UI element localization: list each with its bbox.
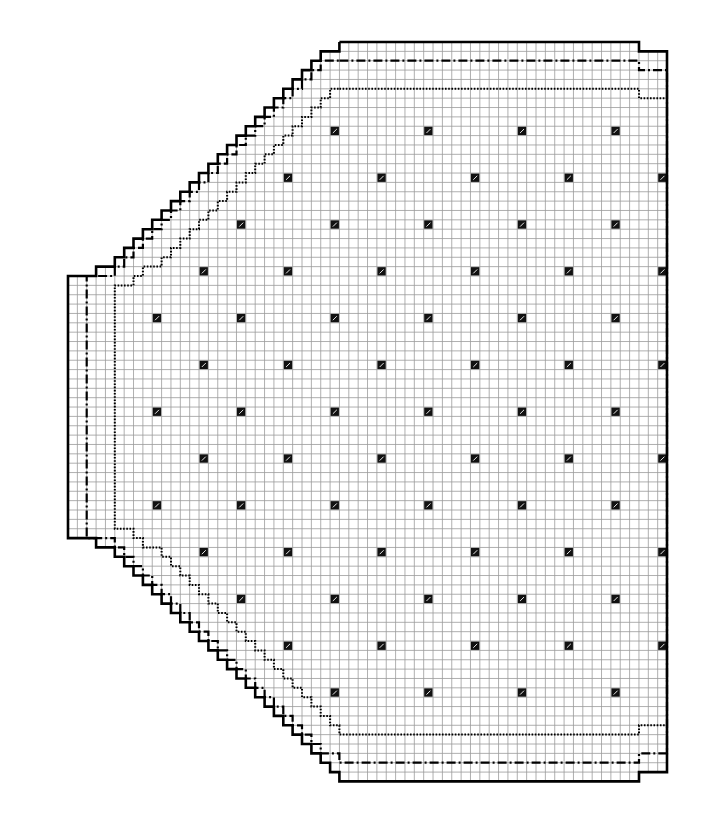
stitch-marker-icon	[331, 595, 339, 603]
stitch-marker-icon	[200, 361, 208, 369]
stitch-markers	[153, 127, 667, 697]
stitch-marker-icon	[471, 642, 479, 650]
stitch-marker-icon	[424, 220, 432, 228]
stitch-marker-icon	[424, 314, 432, 322]
stitch-marker-icon	[565, 548, 573, 556]
stitch-marker-icon	[284, 174, 292, 182]
stitch-marker-icon	[658, 361, 666, 369]
stitch-marker-icon	[200, 454, 208, 462]
stitch-marker-icon	[377, 454, 385, 462]
stitch-marker-icon	[377, 361, 385, 369]
stitch-marker-icon	[471, 548, 479, 556]
stitch-marker-icon	[424, 595, 432, 603]
stitch-marker-icon	[658, 548, 666, 556]
stitch-marker-icon	[471, 267, 479, 275]
stitch-marker-icon	[237, 408, 245, 416]
stitch-marker-icon	[611, 314, 619, 322]
stitch-marker-icon	[424, 688, 432, 696]
stitch-marker-icon	[153, 314, 161, 322]
stitch-marker-icon	[237, 220, 245, 228]
stitch-marker-icon	[565, 454, 573, 462]
upper-sleeve-chart-grid	[0, 0, 707, 829]
stitch-marker-icon	[518, 501, 526, 509]
stitch-marker-icon	[284, 642, 292, 650]
stitch-marker-icon	[518, 595, 526, 603]
stitch-marker-icon	[153, 408, 161, 416]
stitch-marker-icon	[153, 501, 161, 509]
stitch-marker-icon	[377, 642, 385, 650]
stitch-marker-icon	[377, 267, 385, 275]
stitch-marker-icon	[518, 408, 526, 416]
stitch-marker-icon	[331, 127, 339, 135]
stitch-marker-icon	[611, 220, 619, 228]
stitch-marker-icon	[237, 501, 245, 509]
stitch-marker-icon	[611, 595, 619, 603]
stitch-marker-icon	[200, 548, 208, 556]
stitch-marker-icon	[565, 642, 573, 650]
stitch-marker-icon	[377, 174, 385, 182]
stitch-marker-icon	[237, 595, 245, 603]
stitch-marker-icon	[565, 361, 573, 369]
stitch-marker-icon	[471, 454, 479, 462]
stitch-marker-icon	[424, 408, 432, 416]
stitch-marker-icon	[658, 642, 666, 650]
stitch-marker-icon	[331, 314, 339, 322]
stitch-marker-icon	[658, 174, 666, 182]
stitch-marker-icon	[611, 408, 619, 416]
stitch-marker-icon	[565, 267, 573, 275]
stitch-marker-icon	[284, 361, 292, 369]
stitch-marker-icon	[284, 548, 292, 556]
stitch-marker-icon	[200, 267, 208, 275]
stitch-marker-icon	[565, 174, 573, 182]
stitch-marker-icon	[518, 688, 526, 696]
stitch-marker-icon	[424, 501, 432, 509]
stitch-marker-icon	[611, 501, 619, 509]
inner-size-outline	[115, 89, 667, 735]
stitch-marker-icon	[331, 220, 339, 228]
stitch-marker-icon	[331, 408, 339, 416]
stitch-marker-icon	[471, 174, 479, 182]
stitch-marker-icon	[518, 220, 526, 228]
stitch-marker-icon	[658, 454, 666, 462]
stitch-marker-icon	[611, 127, 619, 135]
stitch-marker-icon	[611, 688, 619, 696]
stitch-marker-icon	[658, 267, 666, 275]
stitch-marker-icon	[237, 314, 245, 322]
stitch-marker-icon	[377, 548, 385, 556]
stitch-marker-icon	[284, 267, 292, 275]
stitch-marker-icon	[471, 361, 479, 369]
stitch-marker-icon	[331, 501, 339, 509]
stitch-marker-icon	[518, 314, 526, 322]
stitch-marker-icon	[284, 454, 292, 462]
stitch-marker-icon	[331, 688, 339, 696]
stitch-marker-icon	[424, 127, 432, 135]
stitch-marker-icon	[518, 127, 526, 135]
